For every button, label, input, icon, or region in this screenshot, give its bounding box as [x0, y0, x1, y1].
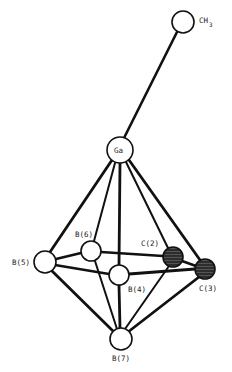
- bond-b7-c2: [125, 266, 169, 329]
- atom-c3: [195, 259, 215, 279]
- label-c3: C(3): [199, 284, 217, 293]
- label-b6: B(6): [75, 230, 93, 239]
- atom-b6: [81, 241, 101, 261]
- bond-b7-b5: [52, 271, 113, 331]
- bond-ga-b4: [119, 163, 120, 265]
- label-c2: C(2): [141, 239, 159, 248]
- bond-b4-c3: [129, 269, 195, 274]
- bond-ga-ch3: [124, 32, 177, 138]
- bond-ga-b6: [94, 163, 115, 241]
- label-ch3: CH: [199, 16, 209, 25]
- molecular-diagram: CH 3 Ga B(5) B(6) B(4) C(2) C(3) B(7): [0, 0, 232, 372]
- bond-b6-c2: [101, 252, 163, 256]
- label-b7: B(7): [112, 354, 130, 363]
- labels: CH 3 Ga B(5) B(6) B(4) C(2) C(3) B(7): [12, 16, 217, 363]
- atoms: [34, 11, 215, 350]
- bond-b5-b4: [55, 265, 109, 274]
- label-b5: B(5): [12, 258, 30, 267]
- bond-b5-b6: [56, 253, 81, 259]
- label-ga: Ga: [114, 146, 123, 155]
- bonds: [50, 32, 200, 332]
- atom-b7: [110, 328, 132, 350]
- label-b4: B(4): [128, 285, 146, 294]
- bond-c2-c3: [182, 261, 196, 266]
- atom-c2: [163, 247, 183, 267]
- atom-b5: [34, 251, 56, 273]
- atom-b4: [109, 265, 129, 285]
- atom-ch3: [172, 11, 194, 33]
- bond-ga-c3: [129, 160, 200, 260]
- label-ch3-subscript: 3: [209, 21, 213, 28]
- bond-b7-b4: [119, 285, 120, 328]
